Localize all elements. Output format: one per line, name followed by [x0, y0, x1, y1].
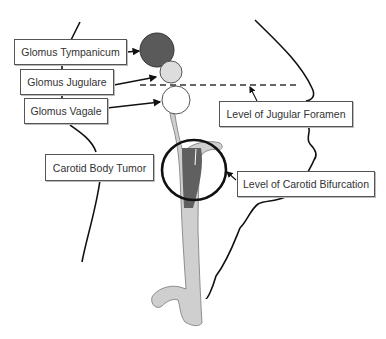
arrow-vagale: [107, 102, 160, 108]
label-glomus-vagale: Glomus Vagale: [24, 98, 108, 124]
label-level-jugular-foramen: Level of Jugular Foramen: [219, 101, 353, 127]
glomus-jugulare-mass: [160, 61, 182, 83]
arrow-carotid-bifurcation: [227, 172, 236, 180]
label-carotid-body-tumor: Carotid Body Tumor: [45, 154, 154, 181]
arrow-jugular-foramen: [250, 87, 257, 101]
label-glomus-tympanicum: Glomus Tympanicum: [14, 39, 127, 65]
label-level-carotid-bifurcation: Level of Carotid Bifurcation: [237, 171, 375, 197]
glomus-vagale-mass: [162, 86, 190, 114]
arrow-tympanicum: [127, 51, 139, 52]
right-contour-line: [206, 20, 316, 298]
arrow-jugulare: [114, 77, 156, 85]
label-glomus-jugulare: Glomus Jugulare: [20, 69, 114, 95]
